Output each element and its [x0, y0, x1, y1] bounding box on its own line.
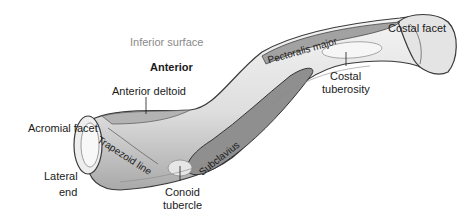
label-lateral-end-2: end: [59, 186, 77, 199]
label-conoid-tubercle-2: tubercle: [163, 199, 202, 212]
label-conoid-tubercle-1: Conoid: [165, 186, 200, 199]
clavicle-diagram: Inferior surface Anterior Anterior delto…: [0, 0, 465, 215]
label-anterior: Anterior: [150, 61, 193, 74]
label-costal-tuberosity-1: Costal: [330, 70, 361, 83]
label-acromial-facet: Acromial facet: [28, 122, 98, 135]
label-costal-tuberosity-2: tuberosity: [322, 83, 370, 96]
label-anterior-deltoid: Anterior deltoid: [112, 85, 186, 98]
label-inferior-surface: Inferior surface: [130, 36, 203, 49]
label-lateral-end-1: Lateral: [44, 170, 78, 183]
label-costal-facet: Costal facet: [388, 22, 446, 35]
